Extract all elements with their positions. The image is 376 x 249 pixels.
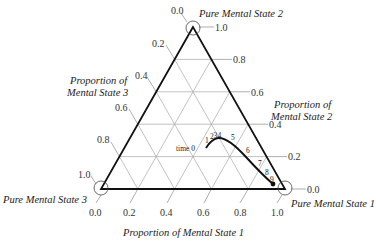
ternary-plot: time 0 1 2 3 4 5 6 7 8 9 1.0 0.8 0.6 0.4… — [0, 0, 376, 249]
tick-state3-0.2: 0.2 — [152, 38, 165, 49]
tick-state3-0.0: 0.0 — [171, 5, 184, 16]
tick-state2-1.0: 1.0 — [215, 22, 228, 33]
tick-state1-0.6: 0.6 — [197, 207, 210, 218]
vertex-label-state2: Pure Mental State 2 — [198, 8, 284, 19]
tick-state2-0.8: 0.8 — [233, 54, 246, 65]
tick-state3-0.4: 0.4 — [135, 70, 148, 81]
trajectory-line — [206, 138, 273, 184]
axis-title-state2-line1: Proportion of — [273, 99, 333, 110]
vertex-label-state3: Pure Mental State 3 — [2, 194, 87, 205]
tick-state2-0.6: 0.6 — [251, 87, 264, 98]
tick-state3-0.8: 0.8 — [97, 134, 110, 145]
tick-state1-0.8: 0.8 — [234, 207, 247, 218]
vertex-label-state1: Pure Mental State 1 — [290, 198, 375, 209]
time-label-6: 6 — [246, 146, 250, 155]
tick-state1-0.0: 0.0 — [89, 207, 102, 218]
leaders-state1 — [96, 189, 282, 203]
time-label-1: 1 — [205, 136, 209, 145]
axis-title-state1: Proportion of Mental State 1 — [122, 227, 244, 238]
time-label-8: 8 — [265, 168, 269, 177]
tick-state2-0.2: 0.2 — [288, 151, 301, 162]
leaders-state3 — [91, 13, 187, 184]
axis-title-state2-line2: Mental State 2 — [270, 111, 333, 122]
time-label-5: 5 — [231, 133, 235, 142]
time-label-7: 7 — [258, 159, 262, 168]
tick-state1-0.2: 0.2 — [123, 207, 136, 218]
time-label-4: 4 — [218, 131, 222, 140]
tick-state1-1.0: 1.0 — [271, 207, 284, 218]
time-label-9: 9 — [270, 175, 274, 184]
axis-title-state3-line2: Mental State 3 — [66, 87, 128, 98]
axis-title-state3-line1: Proportion of — [69, 75, 129, 86]
tick-state2-0.0: 0.0 — [307, 184, 320, 195]
tick-state1-0.4: 0.4 — [160, 207, 173, 218]
ticks-state1: 0.0 0.2 0.4 0.6 0.8 1.0 — [89, 207, 284, 218]
tick-state3-0.6: 0.6 — [115, 102, 128, 113]
time-label-0: time 0 — [176, 144, 195, 153]
tick-state3-1.0: 1.0 — [78, 169, 91, 180]
